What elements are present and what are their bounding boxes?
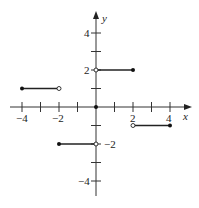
y-tick-label-4: 4	[84, 27, 90, 39]
open-dot-icon	[131, 124, 135, 128]
open-dot-icon	[94, 68, 98, 72]
x-axis-label: x	[182, 110, 188, 122]
segment-4	[131, 124, 172, 128]
segment-2	[57, 142, 98, 146]
segment-1	[20, 87, 61, 91]
closed-dot-icon	[20, 87, 24, 91]
x-tick-label-m4: −4	[16, 112, 28, 124]
closed-dot-icon	[131, 68, 135, 72]
x-tick-label-m2: −2	[52, 112, 64, 124]
x-tick-label-4: 4	[166, 112, 172, 124]
open-dot-icon	[57, 87, 61, 91]
y-tick-label-2: 2	[84, 64, 90, 76]
origin-closed-dot-icon	[94, 105, 98, 109]
segment-3	[94, 68, 135, 72]
closed-dot-icon	[57, 142, 61, 146]
open-dot-icon	[94, 142, 98, 146]
x-tick-label-2: 2	[130, 112, 136, 124]
y-tick-label-m2: −2	[104, 138, 116, 150]
y-tick-label-m4: −4	[78, 175, 90, 187]
step-function-graph: −4 −2 2 4 x 4 2 −2 −4 y	[0, 0, 199, 208]
closed-dot-icon	[168, 124, 172, 128]
y-axis-arrow-icon	[93, 11, 99, 19]
y-axis-label: y	[101, 12, 107, 24]
